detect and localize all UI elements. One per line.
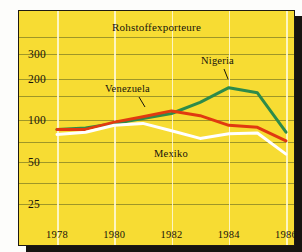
leader-venezuela (139, 97, 145, 107)
series-label-venezuela: Venezuela (105, 83, 150, 94)
series-label-nigeria: Nigeria (201, 55, 234, 66)
chart-plate: Rohstoffexporteure 3002001005025 1978198… (18, 10, 295, 246)
series-label-mexiko: Mexiko (154, 148, 188, 159)
leader-nigeria (224, 69, 228, 79)
series-lines (19, 11, 296, 247)
plot-area: Rohstoffexporteure 3002001005025 1978198… (19, 11, 294, 245)
chart-figure: Rohstoffexporteure 3002001005025 1978198… (0, 0, 302, 252)
